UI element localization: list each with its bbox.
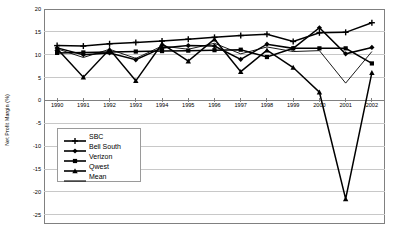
x-axis-tick-labels: 1990199119921993199419951996199719981999… (44, 102, 385, 114)
data-point-marker (317, 46, 321, 50)
data-point-marker (264, 47, 269, 52)
legend-item-mean[interactable]: Mean (58, 172, 140, 182)
data-point-marker (291, 46, 295, 50)
data-point-marker (370, 61, 374, 65)
data-point-marker (185, 36, 191, 42)
y-tick-label: -15 (1, 166, 41, 172)
legend-item-qwest[interactable]: Qwest (58, 162, 140, 172)
legend-swatch-none-icon (62, 172, 88, 182)
y-tick-label: 15 (1, 29, 41, 35)
legend-item-verizon[interactable]: Verizon (58, 152, 140, 162)
y-tick-label: 0 (1, 97, 41, 103)
data-point-marker (212, 48, 216, 52)
legend-item-sbc[interactable]: SBC (58, 132, 140, 142)
plot-svg (44, 9, 385, 224)
y-tick-label: -20 (1, 189, 41, 195)
y-tick-label: 5 (1, 75, 41, 81)
data-point-marker (290, 38, 296, 44)
data-point-marker (238, 33, 244, 39)
chart-legend: SBCBell SouthVerizonQwestMean (57, 128, 141, 182)
data-point-marker (369, 20, 375, 26)
data-point-marker (133, 39, 139, 45)
legend-label: Mean (88, 172, 107, 182)
data-point-marker (134, 49, 138, 53)
data-point-marker (239, 48, 243, 52)
data-point-marker (265, 55, 269, 59)
y-axis-tick-labels: 20151050-5-10-15-20-25 (0, 9, 41, 224)
legend-swatch-plus-icon (62, 132, 88, 142)
data-point-marker (160, 49, 164, 53)
legend-swatch-triangle-icon (62, 162, 88, 172)
legend-swatch-square-icon (62, 152, 88, 162)
y-tick-label: 20 (1, 6, 41, 12)
y-tick-label: -25 (1, 212, 41, 218)
legend-swatch-diamond-icon (62, 142, 88, 152)
data-point-marker (369, 45, 374, 50)
data-point-marker (344, 46, 348, 50)
line-chart: Net Profit Margin (%) 20151050-5-10-15-2… (0, 0, 403, 240)
x-tick-label: 2002 (357, 102, 387, 109)
legend-item-bell-south[interactable]: Bell South (58, 142, 140, 152)
y-tick-label: -10 (1, 143, 41, 149)
data-point-marker (369, 70, 374, 75)
legend-label: SBC (88, 132, 103, 142)
legend-label: Qwest (88, 162, 109, 172)
data-point-marker (81, 50, 85, 54)
y-tick-label: -5 (1, 120, 41, 126)
data-point-marker (343, 196, 348, 201)
data-point-marker (186, 43, 191, 48)
data-point-marker (343, 29, 349, 35)
data-point-marker (80, 43, 86, 49)
legend-label: Verizon (88, 152, 112, 162)
plot-area (44, 9, 385, 224)
legend-label: Bell South (88, 142, 121, 152)
y-tick-label: 10 (1, 52, 41, 58)
data-point-marker (107, 41, 113, 47)
